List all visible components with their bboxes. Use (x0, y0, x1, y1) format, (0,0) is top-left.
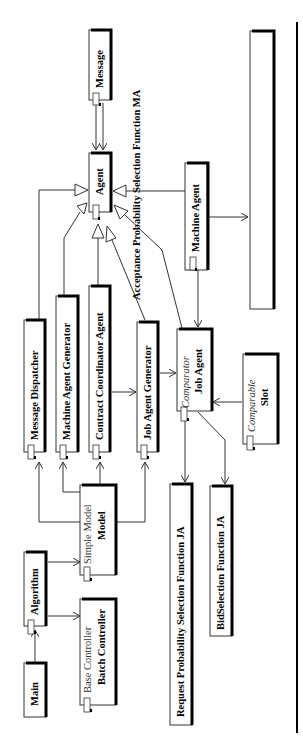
class-job-agent[interactable]: Comparator Job Agent (177, 329, 212, 421)
class-name-message: Message (94, 50, 105, 88)
stereotype-simple-model: Simple Model (82, 504, 93, 564)
stereotype-base-controller: Base Controller (82, 626, 93, 693)
class-name-machine-agent: Machine Agent (190, 184, 201, 252)
class-name-machine-agent-generator: Machine Agent Generator (61, 322, 72, 440)
class-request-probability[interactable]: Request Probability Selection Function J… (170, 484, 192, 725)
class-algorithm[interactable]: Algorithm (24, 552, 46, 634)
class-machine-agent[interactable]: Machine Agent (185, 163, 208, 271)
stereotype-comparator: Comparator (180, 355, 191, 408)
class-job-agent-generator[interactable]: Job Agent Generator (137, 322, 158, 459)
class-name-request-probability: Request Probability Selection Function J… (175, 526, 186, 717)
class-name-model: Model (96, 511, 107, 540)
class-machine-agent-generator[interactable]: Machine Agent Generator (56, 296, 78, 459)
class-contract-coordinator-agent[interactable]: Contract Coordinator Agent (89, 286, 110, 459)
class-name-job-agent-generator: Job Agent Generator (142, 345, 153, 440)
class-name-main: Main (29, 682, 40, 706)
stereotype-comparable: Comparable (246, 379, 257, 432)
class-model[interactable]: Simple Model Model (80, 485, 116, 581)
class-name-agent: Agent (94, 168, 105, 195)
class-name-batch-controller: Batch Controller (96, 609, 107, 685)
class-name-slot: Slot (259, 388, 270, 406)
class-name-contract-coordinator-agent: Contract Coordinator Agent (94, 312, 105, 440)
class-message[interactable]: Message (89, 30, 111, 106)
class-slot[interactable]: Comparable Slot (243, 354, 278, 450)
class-empty-box[interactable] (250, 31, 274, 309)
acceptance-probability-label: Acceptance Probability Selection Functio… (131, 89, 142, 300)
class-batch-controller[interactable]: Base Controller Batch Controller (80, 599, 116, 712)
class-main[interactable]: Main (24, 663, 46, 717)
class-message-dispatcher[interactable]: Message Dispatcher (24, 320, 45, 459)
class-name-algorithm: Algorithm (29, 568, 40, 615)
class-agent[interactable]: Agent (89, 153, 111, 220)
class-bid-selection[interactable]: BidSelection Function JA (210, 486, 232, 636)
class-name-message-dispatcher: Message Dispatcher (29, 350, 40, 440)
class-name-bid-selection: BidSelection Function JA (215, 515, 226, 630)
class-name-job-agent: Job Agent (193, 348, 204, 394)
uml-diagram: Message Agent Acceptance Probability Sel… (0, 0, 303, 752)
